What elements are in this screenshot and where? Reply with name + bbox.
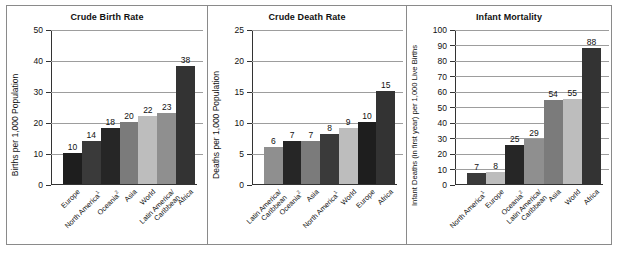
bar-value-label: 23 [162, 102, 171, 112]
bar[interactable]: 10 [358, 122, 377, 184]
bar[interactable]: 7 [467, 173, 486, 184]
y-axis-tick [247, 61, 252, 62]
bar[interactable]: 8 [320, 134, 339, 184]
y-axis-tick-label: 50 [34, 25, 43, 35]
y-axis-tick-label: 0 [239, 180, 244, 190]
bar-slot: 7 [301, 30, 320, 184]
bar-slot: 88 [582, 30, 601, 184]
bar-value-label: 9 [346, 117, 351, 127]
y-axis-tick [450, 61, 455, 62]
chart-title: Crude Birth Rate [7, 12, 207, 22]
y-axis-tick-label: 100 [433, 25, 447, 35]
y-axis-tick-label: 20 [34, 118, 43, 128]
bar-slot: 54 [544, 30, 563, 184]
bar[interactable]: 18 [101, 128, 120, 184]
y-axis-label: Deaths per 1,000 Population [208, 6, 224, 244]
y-axis-tick [247, 92, 252, 93]
bar-group: 10141820222338 [63, 30, 195, 184]
bar-slot: 7 [467, 30, 486, 184]
bar-value-label: 7 [474, 162, 479, 172]
bar[interactable]: 7 [283, 141, 302, 184]
y-axis-tick [46, 154, 51, 155]
bar-value-label: 29 [529, 128, 538, 138]
bar-slot: 15 [376, 30, 395, 184]
y-axis-tick [450, 45, 455, 46]
y-axis-tick-label: 40 [34, 56, 43, 66]
y-axis-tick-label: 25 [235, 25, 244, 35]
bar-slot: 7 [283, 30, 302, 184]
x-axis-labels: North America1EuropeOceania2Latin Americ… [455, 185, 603, 243]
y-axis-tick [450, 169, 455, 170]
y-axis-tick-label: 50 [438, 103, 447, 113]
bar[interactable]: 25 [505, 145, 524, 184]
y-axis-tick [46, 30, 51, 31]
bar[interactable]: 22 [138, 116, 157, 184]
bar[interactable]: 20 [120, 122, 139, 184]
bar[interactable]: 14 [82, 141, 101, 184]
bar[interactable]: 29 [524, 139, 543, 184]
y-axis-tick [450, 92, 455, 93]
bar-slot: 9 [339, 30, 358, 184]
y-axis-tick-label: 30 [34, 87, 43, 97]
y-axis-tick-label: 15 [235, 87, 244, 97]
bar-value-label: 22 [143, 105, 152, 115]
x-axis-tick-label: Asia [547, 188, 563, 204]
bar-value-label: 8 [327, 123, 332, 133]
bar[interactable]: 9 [339, 128, 358, 184]
bar-slot: 38 [176, 30, 195, 184]
y-axis-tick-label: 30 [438, 134, 447, 144]
bar-value-label: 7 [308, 130, 313, 140]
y-axis-tick-label: 70 [438, 72, 447, 82]
bar[interactable]: 23 [157, 113, 176, 184]
bar-value-label: 18 [105, 117, 114, 127]
bar[interactable]: 7 [301, 141, 320, 184]
bar-slot: 20 [120, 30, 139, 184]
y-axis-line [51, 30, 52, 185]
y-axis-tick-label: 0 [38, 180, 43, 190]
bar-slot: 8 [320, 30, 339, 184]
bar-value-label: 25 [510, 134, 519, 144]
bar-slot: 23 [157, 30, 176, 184]
y-axis-label: Infant Deaths (in first year) per 1,000 … [407, 6, 423, 244]
bar-slot: 29 [524, 30, 543, 184]
bar-slot: 10 [63, 30, 82, 184]
bar-value-label: 15 [381, 80, 390, 90]
bar-value-label: 54 [548, 89, 557, 99]
y-axis-tick [450, 76, 455, 77]
bar-value-label: 14 [87, 130, 96, 140]
y-axis-tick-label: 20 [235, 56, 244, 66]
bar[interactable]: 15 [376, 91, 395, 184]
bar[interactable]: 38 [176, 66, 195, 184]
bar[interactable]: 6 [264, 147, 283, 184]
chart-panel-infant-mortality: Infant Mortality Infant Deaths (in first… [406, 6, 611, 244]
bar-value-label: 6 [271, 136, 276, 146]
bar[interactable]: 54 [544, 100, 563, 184]
bar-value-label: 20 [124, 111, 133, 121]
y-axis-tick-label: 10 [34, 149, 43, 159]
y-axis-tick [247, 123, 252, 124]
bar[interactable]: 8 [486, 172, 505, 184]
bar-value-label: 8 [493, 161, 498, 171]
bar-slot: 10 [358, 30, 377, 184]
x-axis-tick-label: North America1 [446, 188, 488, 230]
bar-group: 782529545588 [467, 30, 601, 184]
x-axis-tick-label: Asia [123, 188, 139, 204]
y-axis-tick [46, 92, 51, 93]
bar-slot: 55 [563, 30, 582, 184]
y-axis-tick-label: 10 [438, 165, 447, 175]
bar-value-label: 10 [68, 142, 77, 152]
bar[interactable]: 88 [582, 48, 601, 184]
chart-panel-crude-death-rate: Crude Death Rate Deaths per 1,000 Popula… [207, 6, 406, 244]
bar-slot: 14 [82, 30, 101, 184]
bar-slot: 22 [138, 30, 157, 184]
bar-value-label: 55 [568, 88, 577, 98]
plot-area: 0102030405060708090100 782529545588 Nort… [455, 30, 603, 185]
y-axis-tick-label: 40 [438, 118, 447, 128]
y-axis-tick [46, 123, 51, 124]
bar-slot: 25 [505, 30, 524, 184]
bar[interactable]: 55 [563, 99, 582, 184]
y-axis-tick-label: 20 [438, 149, 447, 159]
y-axis-line [252, 30, 253, 185]
bar[interactable]: 10 [63, 153, 82, 184]
y-axis-tick [450, 154, 455, 155]
